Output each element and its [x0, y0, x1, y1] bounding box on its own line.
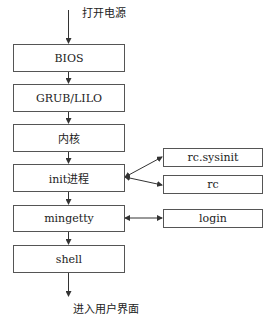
node-login: login — [163, 209, 263, 228]
node-grub: GRUB/LILO — [13, 84, 125, 112]
arrow-init-rcsysinit — [125, 157, 162, 177]
arrow-init-rc — [125, 177, 162, 185]
node-kernel: 内核 — [13, 124, 125, 152]
node-init: init进程 — [13, 164, 125, 192]
node-bios: BIOS — [13, 44, 125, 72]
node-shell: shell — [13, 245, 125, 273]
node-rcsysinit: rc.sysinit — [163, 148, 263, 167]
end-label: 进入用户界面 — [73, 300, 139, 316]
node-mingetty: mingetty — [13, 205, 125, 232]
node-rc: rc — [163, 175, 263, 194]
start-label: 打开电源 — [82, 4, 126, 20]
